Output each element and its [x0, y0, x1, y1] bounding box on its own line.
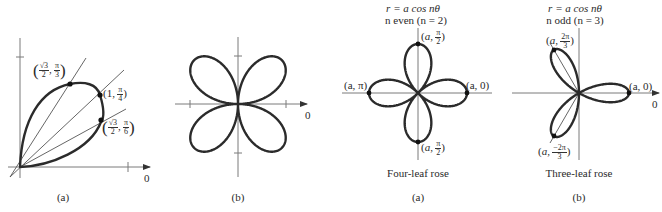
label-point-pi-over-4: (1, π4) [103, 86, 127, 103]
point-pi-over-4 [97, 92, 102, 97]
caption-left-a: (a) [57, 191, 69, 203]
caption-right-a: (a) [412, 191, 424, 203]
zero-label: 0 [652, 99, 658, 110]
condition-label: n even (n = 2) [385, 14, 447, 26]
label-point-pi-over-6: (√32, π6) [102, 119, 135, 136]
equation-label: r = a cos nθ [386, 2, 440, 14]
figure-right-a [342, 28, 492, 160]
figure-right-b [512, 28, 659, 160]
label-point-top: (a, π2) [421, 29, 445, 46]
title-four-leaf-rose: Four-leaf rose [387, 167, 449, 179]
label-point-bottom: (a, π2) [421, 140, 445, 157]
label-point-upper: (a, 2π3) [546, 33, 574, 50]
zero-label: 0 [144, 173, 150, 184]
point-left [367, 91, 372, 96]
label-point-right: (a, 0) [629, 81, 652, 92]
point-bottom [416, 140, 421, 145]
label-point-left: (a, π) [344, 80, 367, 91]
label-point-lower: (a, −2π3) [538, 144, 570, 161]
point-top [416, 42, 421, 47]
figure-left-a [8, 38, 150, 178]
caption-right-b: (b) [573, 191, 586, 203]
label-point-right: (a, 0) [466, 80, 489, 91]
figure-left-b [175, 37, 307, 177]
title-three-leaf-rose: Three-leaf rose [546, 167, 613, 179]
equation-label: r = a cos nθ [548, 2, 602, 14]
zero-label: 0 [305, 110, 311, 121]
point-right [465, 91, 470, 96]
label-point-pi-over-3: (√32, π3) [33, 62, 66, 79]
condition-label: n odd (n = 3) [546, 14, 604, 26]
point-pi-over-3 [67, 81, 72, 86]
caption-left-b: (b) [232, 191, 245, 203]
point-lower [552, 134, 557, 139]
